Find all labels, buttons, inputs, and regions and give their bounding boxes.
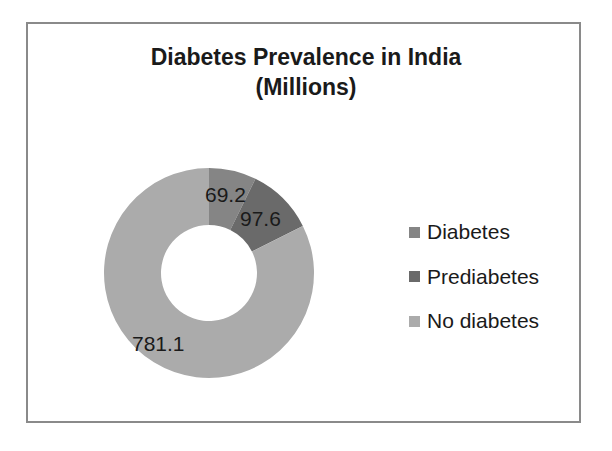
chart-legend: Diabetes Prediabetes No diabetes bbox=[409, 210, 539, 344]
data-label-prediabetes: 97.6 bbox=[240, 207, 281, 230]
legend-item-no-diabetes: No diabetes bbox=[409, 299, 539, 344]
legend-swatch-prediabetes bbox=[409, 271, 420, 282]
legend-label: Diabetes bbox=[427, 220, 510, 244]
legend-label: No diabetes bbox=[427, 309, 539, 333]
data-label-diabetes: 69.2 bbox=[205, 183, 246, 206]
data-label-no-diabetes: 781.1 bbox=[132, 332, 185, 355]
legend-label: Prediabetes bbox=[427, 265, 539, 289]
legend-item-prediabetes: Prediabetes bbox=[409, 255, 539, 300]
legend-swatch-no-diabetes bbox=[409, 316, 420, 327]
legend-swatch-diabetes bbox=[409, 227, 420, 238]
legend-item-diabetes: Diabetes bbox=[409, 210, 539, 255]
